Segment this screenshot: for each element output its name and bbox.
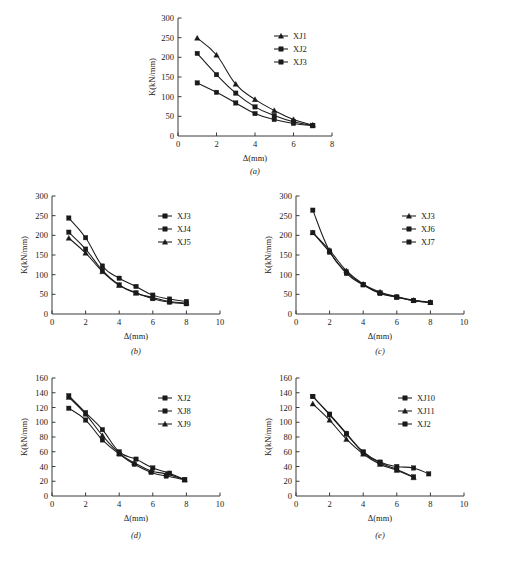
data-point (272, 108, 277, 113)
legend-marker (407, 240, 411, 244)
legend-item-XJ3[interactable]: XJ3 (158, 211, 191, 221)
data-point (83, 235, 87, 239)
panel-label: (c) (375, 346, 385, 356)
axes: 0246810501001502002503000 (35, 191, 224, 327)
y-tick-label: 120 (279, 403, 292, 413)
x-axis-label: Δ(mm) (124, 331, 149, 341)
series-line (313, 396, 429, 473)
series-group (66, 394, 187, 482)
y-tick-label: 160 (35, 373, 48, 383)
data-point (100, 427, 104, 431)
x-tick-label: 8 (330, 139, 334, 149)
legend: XJ2XJ8XJ9 (158, 393, 191, 429)
data-point (395, 467, 399, 471)
y-tick-label: 300 (161, 13, 174, 23)
legend-label: XJ3 (293, 57, 307, 67)
y-tick-label: 20 (284, 476, 293, 486)
y-tick-label: 0 (44, 491, 48, 501)
y-tick-label: 300 (35, 191, 48, 201)
y-tick-label: 200 (35, 230, 48, 240)
data-point (117, 276, 121, 280)
panel-label: (a) (250, 166, 260, 176)
x-tick-label: 6 (395, 317, 399, 327)
legend-item-XJ11[interactable]: XJ11 (398, 406, 435, 416)
legend-marker (407, 227, 411, 231)
y-tick-label: 100 (35, 270, 48, 280)
y-tick-label: 100 (279, 417, 292, 427)
axes: 0246810204060801001201401600 (35, 373, 224, 509)
legend-item-XJ3[interactable]: XJ3 (274, 57, 307, 67)
chart-svg: 0246810204060801001201401600Δ(mm)K(kN/mm… (18, 368, 236, 540)
x-tick-label: 4 (117, 499, 122, 509)
data-point (327, 413, 331, 417)
chart-panel-e: 0246810204060801001201401600Δ(mm)K(kN/mm… (262, 368, 480, 540)
series-group (310, 208, 433, 305)
y-tick-label: 200 (161, 52, 174, 62)
data-point (361, 450, 365, 454)
series-XJ8 (67, 406, 187, 482)
axes: 02468501001502002503000 (161, 13, 334, 149)
data-point (427, 472, 431, 476)
legend-label: XJ6 (421, 224, 435, 234)
legend-item-XJ8[interactable]: XJ8 (158, 406, 191, 416)
y-tick-label: 40 (40, 462, 49, 472)
panel-label: (d) (131, 530, 141, 540)
legend-item-XJ3[interactable]: XJ3 (402, 211, 435, 221)
x-axis-label: Δ(mm) (243, 153, 268, 163)
data-point (83, 418, 87, 422)
chart-svg: 02468501001502002503000Δ(mm)K(kN/mm)XJ1X… (148, 8, 348, 176)
legend-item-XJ2[interactable]: XJ2 (158, 393, 191, 403)
data-point (66, 235, 71, 240)
legend-marker (163, 214, 167, 218)
chart-svg: 0246810204060801001201401600Δ(mm)K(kN/mm… (262, 368, 480, 540)
y-tick-label: 100 (279, 270, 292, 280)
data-point (214, 90, 218, 94)
legend-item-XJ2[interactable]: XJ2 (274, 44, 307, 54)
data-point (411, 475, 415, 479)
legend-marker (163, 396, 167, 400)
x-tick-label: 0 (294, 499, 298, 509)
y-tick-label: 100 (161, 92, 174, 102)
data-point (291, 121, 295, 125)
y-tick-label: 160 (279, 373, 292, 383)
data-point (310, 401, 315, 406)
legend-label: XJ5 (177, 237, 191, 247)
chart-panel-d: 0246810204060801001201401600Δ(mm)K(kN/mm… (18, 368, 236, 540)
x-tick-label: 0 (50, 317, 54, 327)
legend-item-XJ4[interactable]: XJ4 (158, 224, 191, 234)
series-XJ10 (311, 394, 431, 476)
series-line (69, 232, 187, 304)
data-point (214, 72, 218, 76)
x-tick-label: 8 (184, 317, 188, 327)
legend-item-XJ9[interactable]: XJ9 (158, 419, 191, 429)
x-tick-label: 8 (428, 499, 432, 509)
series-XJ2 (311, 394, 416, 479)
y-axis-label: K(kN/mm) (19, 418, 29, 456)
legend-item-XJ5[interactable]: XJ5 (158, 237, 191, 247)
legend-item-XJ6[interactable]: XJ6 (402, 224, 435, 234)
legend-item-XJ10[interactable]: XJ10 (398, 393, 435, 403)
x-tick-label: 10 (460, 317, 469, 327)
x-axis-label: Δ(mm) (368, 513, 393, 523)
x-axis-label: Δ(mm) (124, 513, 149, 523)
legend-marker (279, 60, 283, 64)
x-tick-label: 0 (294, 317, 298, 327)
y-tick-label: 200 (279, 230, 292, 240)
panel-label: (e) (375, 530, 385, 540)
series-XJ3 (310, 230, 433, 305)
x-axis-label: Δ(mm) (368, 331, 393, 341)
y-tick-label: 0 (44, 309, 48, 319)
x-tick-label: 4 (361, 499, 366, 509)
x-tick-label: 6 (291, 139, 295, 149)
x-tick-label: 2 (83, 499, 87, 509)
legend-item-XJ2[interactable]: XJ2 (398, 419, 431, 429)
y-tick-label: 0 (288, 491, 292, 501)
legend: XJ3XJ4XJ5 (158, 211, 191, 247)
legend-item-XJ7[interactable]: XJ7 (402, 237, 435, 247)
legend-label: XJ3 (177, 211, 191, 221)
legend-item-XJ1[interactable]: XJ1 (274, 31, 307, 41)
y-axis-label: K(kN/mm) (263, 236, 273, 274)
x-tick-label: 10 (216, 499, 225, 509)
data-point (361, 282, 365, 286)
data-point (252, 97, 257, 102)
